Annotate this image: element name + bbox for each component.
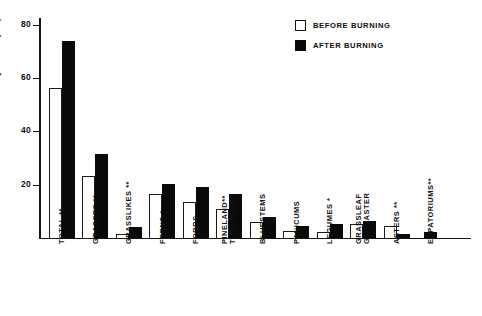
legend-swatch-after-icon [295, 40, 306, 51]
category-label-line: LEGUMES * [326, 198, 334, 244]
legend-swatch-before-icon [295, 20, 306, 31]
category-label-line: PANICUMS [293, 201, 301, 244]
legend-item-before: BEFORE BURNING [295, 20, 430, 31]
category-label: ASTERS ** [393, 201, 401, 244]
category-label-line: ASTERS ** [393, 201, 401, 244]
category-label: FORBS [192, 215, 200, 244]
category-label: FERNS * [159, 210, 167, 244]
category-label: GRASSES ** [92, 195, 100, 244]
category-label-line: THREEAWN [229, 195, 237, 244]
y-tick-label-20: 20 [21, 179, 31, 189]
category-label: GRASSLEAFGOLDASTER [355, 193, 371, 244]
category-label: BLUESTEMS [259, 193, 267, 244]
y-axis-title: FREQUENCY ( % ) [0, 18, 1, 96]
category-label: EUPATORIUMS** [427, 178, 435, 244]
y-tick-label-80: 80 [21, 19, 31, 29]
category-label: LEGUMES * [326, 198, 334, 244]
category-label-line: TOTAL ** [58, 208, 66, 244]
chart-page: FREQUENCY ( % ) 80 60 40 20 TOTAL **GRAS… [0, 0, 482, 316]
category-label: GRASSLIKES ** [125, 181, 133, 244]
category-label-line: FORBS [192, 215, 200, 244]
y-tick-label-40: 40 [21, 125, 31, 135]
category-label-line: GRASSLIKES ** [125, 181, 133, 244]
legend: BEFORE BURNING AFTER BURNING [295, 20, 430, 60]
category-label: TOTAL ** [58, 208, 66, 244]
category-label-line: GRASSES ** [92, 195, 100, 244]
category-label: PANICUMS [293, 201, 301, 244]
category-label-line: GOLDASTER [363, 193, 371, 244]
category-label-line: FERNS * [159, 210, 167, 244]
legend-label-after: AFTER BURNING [313, 41, 384, 50]
y-tick-label-60: 60 [21, 72, 31, 82]
legend-label-before: BEFORE BURNING [313, 21, 391, 30]
category-label-line: BLUESTEMS [259, 193, 267, 244]
category-label: PINELAND**THREEAWN [221, 195, 237, 244]
legend-item-after: AFTER BURNING [295, 40, 430, 51]
category-label-line: EUPATORIUMS** [427, 178, 435, 244]
